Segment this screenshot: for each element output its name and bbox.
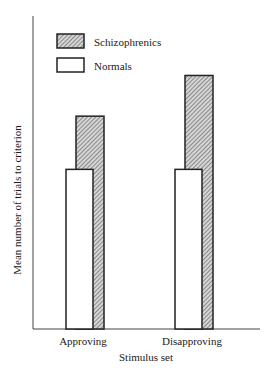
legend-swatch-schizophrenics [57,34,84,48]
x-tick-label-approving: Approving [59,335,107,347]
legend-label-normals: Normals [94,60,132,72]
x-axis-label: Stimulus set [119,351,173,363]
y-axis-label: Mean number of trials to criterion [11,125,23,275]
legend-label-schizophrenics: Schizophrenics [94,36,161,48]
x-tick-label-disapproving: Disapproving [162,335,222,347]
bar-normals-disapproving [175,169,202,329]
bar-chart: Schizophrenics Normals ApprovingDisappro… [0,0,275,373]
legend-swatch-normals [57,58,84,72]
legend: Schizophrenics Normals [57,34,161,72]
bar-normals-approving [66,169,93,329]
